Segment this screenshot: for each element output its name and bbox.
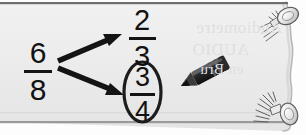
fraction-six-eighths: 6 8: [20, 38, 56, 105]
ghost-text-line-2: AUDIO: [192, 40, 249, 60]
fraction-denominator: 4: [126, 98, 159, 125]
fraction-denominator: 8: [20, 75, 56, 105]
ghost-text-line-1: Audiometre: [196, 18, 282, 38]
ghost-text-line-3: en Bru: [200, 61, 243, 78]
ink-layer: Audiometre AUDIO en Bru 6 8 2 3 3 4: [0, 0, 306, 135]
fraction-numerator: 3: [126, 64, 159, 91]
fraction-numerator: 6: [20, 38, 56, 68]
fraction-numerator: 2: [125, 6, 159, 35]
fraction-three-quarters: 3 4: [126, 64, 159, 125]
note-scene: Audiometre AUDIO en Bru 6 8 2 3 3 4: [0, 0, 306, 135]
